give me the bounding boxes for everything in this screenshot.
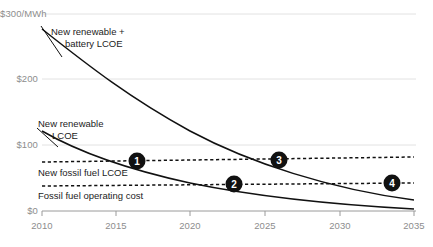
lcoe-cost-crossover-chart: 1 2 3 4 $300/MWh $200 $100 $0 2010 2015 …	[0, 0, 433, 247]
series-new-fossil-fuel-lcoe	[42, 157, 414, 162]
x-axis-label-2010: 2010	[22, 220, 62, 231]
x-axis-label-2035: 2035	[394, 220, 433, 231]
annotation-battery-line1: New renewable +	[51, 26, 125, 37]
marker-2: 2	[226, 176, 243, 193]
marker-4-label: 4	[389, 178, 395, 189]
annotation-new-fossil-fuel-lcoe: New fossil fuel LCOE	[38, 167, 128, 179]
marker-3: 3	[271, 152, 288, 169]
x-axis-label-2030: 2030	[320, 220, 360, 231]
x-axis-label-2025: 2025	[245, 220, 285, 231]
annotation-renewable-line2: LCOE	[38, 130, 78, 142]
annotation-battery-line2: battery LCOE	[51, 38, 123, 50]
annotation-new-renewable-plus-battery-lcoe: New renewable + battery LCOE	[51, 26, 125, 49]
x-axis-label-2020: 2020	[170, 220, 210, 231]
annotation-renewable-line1: New renewable	[38, 118, 103, 129]
y-axis-label-0: $0	[0, 205, 38, 216]
x-axis	[42, 211, 416, 216]
marker-1-label: 1	[134, 156, 140, 167]
marker-3-label: 3	[276, 155, 282, 166]
y-axis-label-100: $100	[0, 139, 38, 150]
marker-4: 4	[384, 175, 401, 192]
marker-1: 1	[129, 153, 146, 170]
annotation-fossil-fuel-operating-cost: Fossil fuel operating cost	[38, 190, 143, 202]
y-axis-label-200: $200	[0, 73, 38, 84]
marker-2-label: 2	[231, 179, 237, 190]
y-axis-label-300: $300/MWh	[0, 8, 38, 19]
x-axis-label-2015: 2015	[96, 220, 136, 231]
annotation-new-renewable-lcoe: New renewable LCOE	[38, 118, 103, 141]
